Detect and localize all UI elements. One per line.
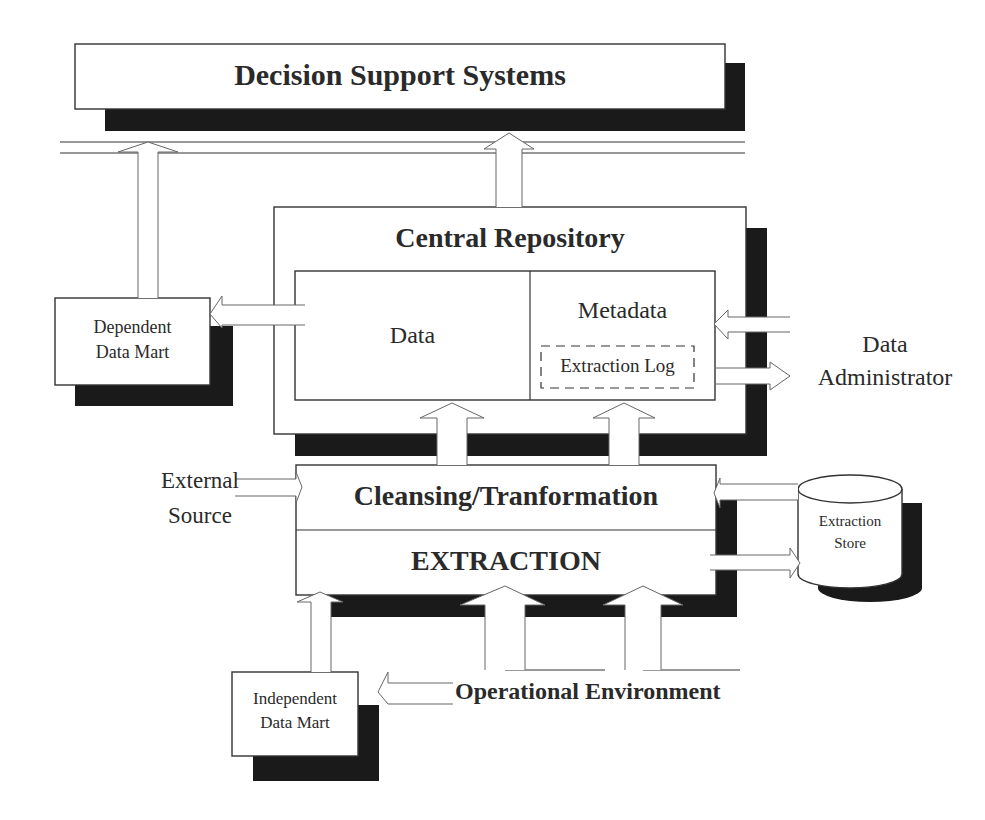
extraction-log-label: Extraction Log xyxy=(541,356,694,377)
data-administrator-line1: Data xyxy=(785,331,985,357)
extraction-store-line2: Store xyxy=(798,535,902,552)
dependent-data-mart-line1: Dependent xyxy=(55,318,210,338)
operational-environment-title: Operational Environment xyxy=(455,678,765,704)
extraction-title: EXTRACTION xyxy=(296,546,716,577)
extraction-store-line1: Extraction xyxy=(798,513,902,530)
metadata-label: Metadata xyxy=(530,297,715,323)
dss-title: Decision Support Systems xyxy=(75,58,725,91)
independent-data-mart-line1: Independent xyxy=(232,690,358,709)
data-label: Data xyxy=(295,322,530,348)
arrow-ops-to-idm xyxy=(378,672,453,704)
external-source-line1: External xyxy=(145,468,255,493)
data-administrator-line2: Administrator xyxy=(785,364,985,390)
dependent-data-mart-line2: Data Mart xyxy=(55,343,210,363)
cleansing-transformation-title: Cleansing/Tranformation xyxy=(296,481,716,512)
external-source-line2: Source xyxy=(145,503,255,528)
central-repository-title: Central Repository xyxy=(274,223,746,254)
arrow-repo-to-dss xyxy=(484,133,534,207)
arrow-ddm-to-dss xyxy=(118,142,178,298)
independent-data-mart-line2: Data Mart xyxy=(232,714,358,733)
